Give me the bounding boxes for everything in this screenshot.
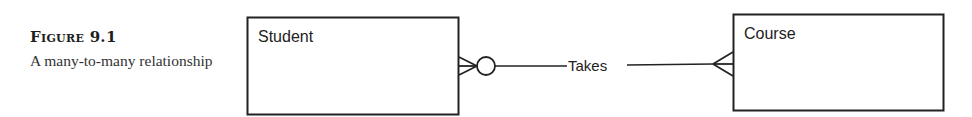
crows-foot-many-icon	[713, 52, 733, 76]
er-diagram: Student Course Takes	[0, 0, 972, 117]
relationship-label: Takes	[568, 57, 607, 74]
entity-course-label: Course	[744, 25, 796, 42]
crows-foot-zero-many-icon	[459, 57, 495, 75]
entity-student-label: Student	[258, 28, 314, 45]
entity-student: Student	[248, 18, 459, 115]
entity-course: Course	[734, 15, 944, 111]
